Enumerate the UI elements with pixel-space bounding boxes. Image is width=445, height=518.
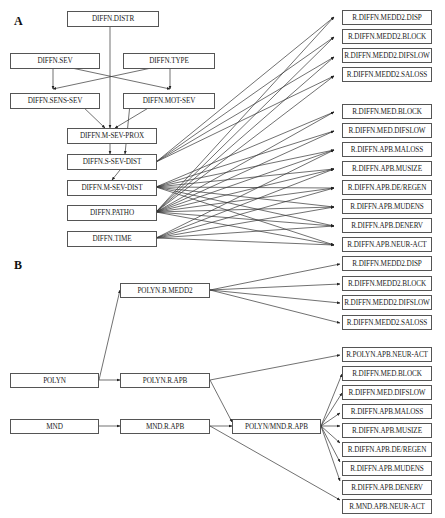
node-diffn-mot-sev: DIFFN.MOT-SEV bbox=[123, 93, 215, 109]
node-b-r-mnd-apb-neur-act: R.MND.APB.NEUR-ACT bbox=[342, 499, 432, 514]
node-b-r-medd2-difslow: R.DIFFN.MEDD2.DIFSLOW bbox=[342, 295, 432, 310]
node-diffn-distr: DIFFN.DISTR bbox=[67, 11, 159, 27]
node-b-r-medd2-block: R.DIFFN.MEDD2.BLOCK bbox=[342, 276, 432, 291]
node-diffn-patho: DIFFN.PATHO bbox=[67, 205, 157, 221]
node-a-r-med-block: R.DIFFN.MED.BLOCK bbox=[342, 104, 432, 119]
node-b-r-polyn-apb-neur-act: R.POLYN.APB.NEUR-ACT bbox=[342, 347, 432, 362]
node-a-r-apb-mudens: R.DIFFN.APB.MUDENS bbox=[342, 199, 432, 214]
node-a-r-apb-de-regen: R.DIFFN.APB.DE/REGEN bbox=[342, 180, 432, 195]
node-b-r-apb-mudens: R.DIFFN.APB.MUDENS bbox=[342, 461, 432, 476]
node-b-r-apb-musize: R.DIFFN.APB.MUSIZE bbox=[342, 423, 432, 438]
node-diffn-time: DIFFN.TIME bbox=[67, 231, 157, 247]
node-a-r-medd2-block: R.DIFFN.MEDD2.BLOCK bbox=[342, 29, 432, 44]
node-a-r-apb-musize: R.DIFFN.APB.MUSIZE bbox=[342, 161, 432, 176]
node-diffn-s-sev-dist: DIFFN.S-SEV-DIST bbox=[67, 154, 157, 170]
node-b-r-medd2-saloss: R.DIFFN.MEDD2.SALOSS bbox=[342, 315, 432, 330]
panel-label-a: A bbox=[14, 14, 23, 29]
node-b-r-apb-maloss: R.DIFFN.APB.MALOSS bbox=[342, 404, 432, 419]
node-a-r-medd2-disp: R.DIFFN.MEDD2.DISP bbox=[342, 10, 432, 25]
node-a-r-med-difslow: R.DIFFN.MED.DIFSLOW bbox=[342, 123, 432, 138]
node-b-r-med-block: R.DIFFN.MED.BLOCK bbox=[342, 366, 432, 381]
node-diffn-m-sev-dist: DIFFN.M-SEV-DIST bbox=[67, 180, 157, 196]
node-polyn-mnd-r-apb: POLYN/MND.R.APB bbox=[232, 419, 321, 434]
node-a-r-apb-neur-act: R.DIFFN.APB.NEUR-ACT bbox=[342, 237, 432, 252]
node-mnd: MND bbox=[10, 419, 99, 434]
node-polyn-r-apb: POLYN.R.APB bbox=[120, 373, 210, 388]
node-mnd-r-apb: MND.R.APB bbox=[120, 419, 210, 434]
node-b-r-apb-de-regen: R.DIFFN.APB.DE/REGEN bbox=[342, 442, 432, 457]
node-b-r-med-difslow: R.DIFFN.MED.DIFSLOW bbox=[342, 385, 432, 400]
node-a-r-medd2-saloss: R.DIFFN.MEDD2.SALOSS bbox=[342, 67, 432, 82]
node-polyn: POLYN bbox=[10, 373, 99, 388]
panel-label-b: B bbox=[14, 258, 22, 273]
node-diffn-m-sev-prox: DIFFN.M-SEV-PROX bbox=[67, 128, 157, 144]
node-b-r-medd2-disp: R.DIFFN.MEDD2.DISP bbox=[342, 256, 432, 271]
node-a-r-apb-maloss: R.DIFFN.APB.MALOSS bbox=[342, 142, 432, 157]
node-a-r-medd2-difslow: R.DIFFN.MEDD2.DIFSLOW bbox=[342, 48, 432, 63]
node-b-r-apb-denerv: R.DIFFN.APB.DENERV bbox=[342, 480, 432, 495]
node-a-r-apb-denerv: R.DIFFN.APB.DENERV bbox=[342, 218, 432, 233]
node-diffn-sens-sev: DIFFN.SENS-SEV bbox=[10, 93, 100, 109]
node-diffn-sev: DIFFN.SEV bbox=[10, 53, 100, 69]
node-polyn-r-medd2: POLYN.R.MEDD2 bbox=[120, 283, 210, 298]
node-diffn-type: DIFFN.TYPE bbox=[123, 53, 215, 69]
